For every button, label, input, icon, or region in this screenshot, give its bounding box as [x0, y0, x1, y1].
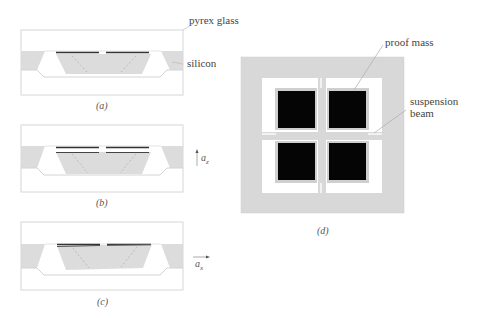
suspension-beam-label-2: beam: [410, 107, 434, 119]
suspension-beam-label-1: suspension: [410, 95, 458, 107]
caption-d: (d): [317, 225, 329, 236]
top-view-drawing: [0, 0, 480, 320]
top-view: proof mass suspension beam (d): [0, 0, 480, 320]
proof-mass-tl: [278, 91, 315, 128]
proof-mass-tr: [329, 91, 366, 128]
proof-mass-bl: [278, 143, 315, 180]
proof-mass-label: proof mass: [385, 36, 434, 48]
proof-mass-br: [329, 143, 366, 180]
